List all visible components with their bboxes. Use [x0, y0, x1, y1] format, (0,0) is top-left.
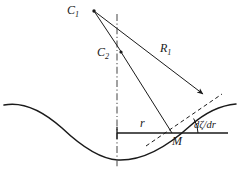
label-r: r [140, 117, 145, 129]
figure-container: C1 C2 R1 r M dζ/dr [0, 0, 237, 169]
wave-surface-curve [4, 104, 236, 160]
c1-vertex-dot [92, 9, 95, 12]
label-slope: dζ/dr [194, 120, 216, 131]
diagram-canvas [0, 0, 237, 169]
radius-line-r1 [94, 11, 203, 94]
label-c1: C1 [67, 4, 79, 20]
label-m: M [172, 135, 182, 147]
c2-vertex-dot [119, 50, 122, 53]
label-r1: R1 [160, 42, 171, 58]
label-c2: C2 [97, 46, 109, 62]
